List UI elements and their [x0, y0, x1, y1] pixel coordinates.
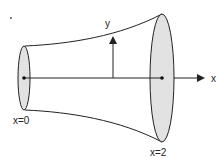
x-axis-label: x: [211, 73, 216, 84]
right-center-point: [160, 76, 164, 80]
left-center-point: [22, 76, 26, 80]
y-axis-label: y: [105, 18, 110, 29]
upper-profile-curve: [25, 14, 162, 46]
solid-of-revolution-diagram: y x x=0 x=2: [0, 0, 220, 158]
right-end-label: x=2: [150, 147, 167, 158]
lower-profile-curve: [25, 110, 162, 142]
left-end-label: x=0: [13, 115, 30, 126]
stray-dot: [10, 17, 12, 19]
